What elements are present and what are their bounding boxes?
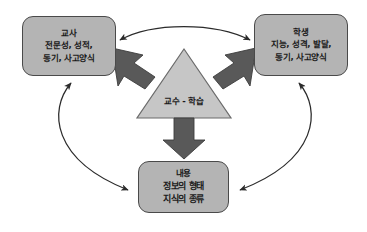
block-arrow-to-teacher-icon: [112, 48, 155, 89]
curved-arrow-teacher-content: [59, 83, 128, 190]
curved-arrow-student-content: [240, 83, 311, 190]
node-teacher-line-2: 동기, 사고양식: [43, 52, 95, 64]
block-arrow-to-content-icon: [163, 118, 205, 159]
teaching-learning-diagram: 교수 - 학습 교사 전문성, 성적, 동기, 사고양식 학생 지능, 성격, …: [0, 0, 367, 232]
node-student: 학생 지능, 성격, 발달, 동기, 사고양식: [254, 14, 348, 76]
node-teacher-line-1: 전문성, 성적,: [45, 39, 92, 51]
block-arrow-to-student-icon: [213, 48, 256, 89]
node-content: 내용 정보의 형태 지식의 종류: [138, 161, 229, 213]
node-teacher-title: 교사: [61, 28, 77, 39]
node-student-line-2: 동기, 사고양식: [275, 51, 327, 63]
node-student-title: 학생: [293, 27, 309, 38]
curved-arrow-teacher-student: [120, 27, 250, 41]
node-student-line-1: 지능, 성격, 발달,: [271, 38, 331, 50]
node-content-line-1: 정보의 형태: [163, 180, 204, 193]
node-content-line-2: 지식의 종류: [163, 193, 204, 206]
node-teacher: 교사 전문성, 성적, 동기, 사고양식: [22, 16, 116, 76]
center-triangle: [137, 49, 231, 118]
node-content-title: 내용: [176, 168, 192, 179]
